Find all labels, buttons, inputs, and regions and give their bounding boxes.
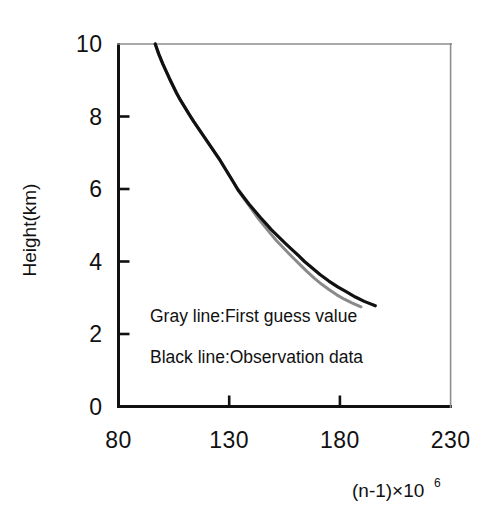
x-axis-title: (n-1)×10 <box>352 480 424 501</box>
legend-observation-label: Black line:Observation data <box>150 347 363 367</box>
y-tick-label-2: 2 <box>89 321 102 347</box>
chart-container: 0246810 80130180230 Height(km) (n-1)×10 … <box>0 0 486 523</box>
y-axis-title: Height(km) <box>19 184 40 277</box>
y-tick-label-4: 4 <box>89 249 102 275</box>
x-tick-label-130: 130 <box>209 427 249 453</box>
y-tick-label-8: 8 <box>89 104 102 130</box>
y-tick-label-0: 0 <box>89 394 102 420</box>
x-tick-label-80: 80 <box>105 427 132 453</box>
y-tick-label-6: 6 <box>89 176 102 202</box>
x-tick-label-180: 180 <box>320 427 360 453</box>
x-axis-title-exponent: 6 <box>434 476 441 490</box>
x-tick-label-230: 230 <box>431 427 471 453</box>
y-tick-label-10: 10 <box>76 31 103 57</box>
legend-first-guess-label: Gray line:First guess value <box>150 306 357 326</box>
refractivity-profile-chart: 0246810 80130180230 Height(km) (n-1)×10 … <box>0 0 486 523</box>
